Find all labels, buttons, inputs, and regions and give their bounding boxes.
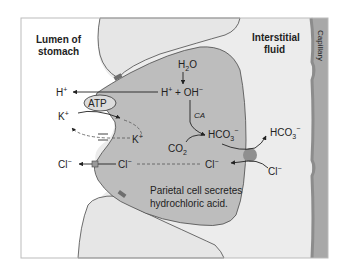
interstitial-label-line1: Interstitial	[252, 32, 300, 43]
atp-label: ATP	[88, 98, 107, 109]
hco3-interstitial-label: HCO3−	[270, 125, 300, 140]
hco3-cell-label: HCO3−	[208, 127, 238, 142]
parietal-cell-diagram: Capillary Lumen of stomach Interstitial …	[0, 0, 345, 278]
cl-channel-icon	[92, 161, 98, 167]
h-oh-label: H+ + OH−	[161, 86, 203, 98]
caption-line1: Parietal cell secretes	[150, 185, 242, 196]
hco3-cl-exchanger	[243, 148, 257, 162]
capillary-label: Capillary	[316, 30, 325, 61]
ca-label: CA	[194, 111, 205, 120]
lumen-label-line2: stomach	[38, 46, 79, 57]
interstitial-label-line2: fluid	[264, 44, 285, 55]
lumen-label-line1: Lumen of	[36, 34, 82, 45]
caption-line2: hydrochloric acid.	[150, 198, 228, 209]
